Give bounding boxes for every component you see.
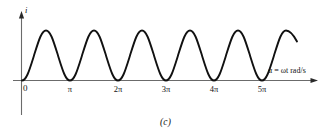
origin-tick-label: 0: [23, 83, 28, 93]
figure-container: 0 π 2π 3π 4π 5π i α = ωt rad/s (c): [0, 0, 331, 137]
waveform-path: [22, 31, 297, 81]
y-axis-arrowhead: [19, 11, 24, 19]
xtick-label-3pi: 3π: [162, 84, 171, 94]
xtick-label-2pi: 2π: [114, 84, 123, 94]
figure-caption: (c): [0, 117, 331, 127]
xtick-label-pi: π: [68, 84, 73, 94]
xtick-label-4pi: 4π: [210, 84, 219, 94]
y-axis-label: i: [25, 5, 28, 15]
x-axis-label: α = ωt rad/s: [268, 66, 306, 75]
xtick-label-5pi: 5π: [258, 84, 267, 94]
x-axis-arrowhead: [311, 78, 319, 83]
